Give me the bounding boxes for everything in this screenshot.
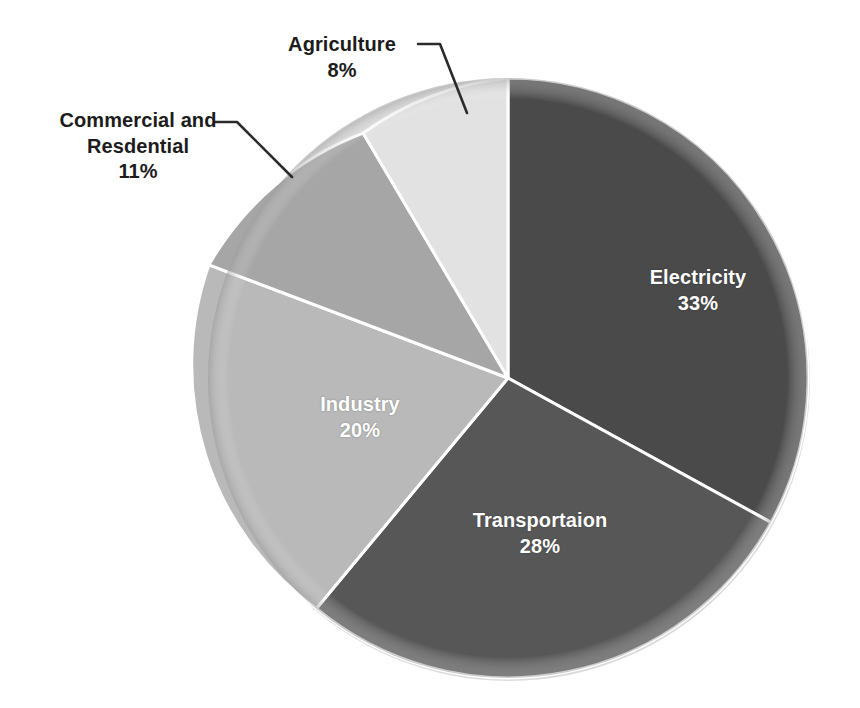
pie-chart-figure: Electricity 33% Transportaion 28% Indust… <box>0 0 860 708</box>
leader-line-commercial-residential <box>215 122 292 177</box>
pie-chart-canvas <box>0 0 860 708</box>
pie-edge-shading <box>208 78 808 678</box>
